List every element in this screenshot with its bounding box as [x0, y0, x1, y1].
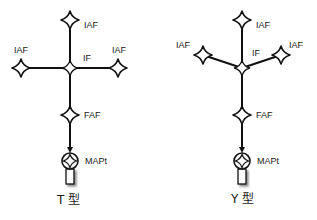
t-mapt-label: MAPt: [85, 156, 108, 166]
t-if-waypoint-icon: [62, 60, 77, 75]
t-iaf-left-waypoint-icon: [12, 59, 30, 77]
y-iaf-right-waypoint-icon: [272, 46, 290, 64]
y-type-caption: Y 型: [230, 192, 254, 206]
t-iaf-top-waypoint-icon: [61, 11, 79, 29]
y-if-label: IF: [252, 48, 261, 58]
t-iaf-top-label: IAF: [84, 20, 99, 30]
approach-diagrams: IAF IAF IAF IF FAF MAPt T 型 IAF IAF IAF …: [0, 0, 317, 220]
t-faf-waypoint-icon: [61, 106, 79, 124]
y-iaf-top-waypoint-icon: [233, 11, 251, 29]
t-type-diagram: IAF IAF IAF IF FAF MAPt T 型: [12, 11, 127, 207]
y-faf-waypoint-icon: [233, 106, 251, 124]
y-mapt-symbol-icon: [234, 153, 250, 184]
t-faf-label: FAF: [84, 110, 101, 120]
t-iaf-right-label: IAF: [112, 45, 127, 55]
y-if-waypoint-icon: [234, 60, 249, 75]
t-type-caption: T 型: [56, 193, 80, 207]
y-iaf-left-label: IAF: [176, 40, 191, 50]
y-iaf-right-label: IAF: [289, 40, 304, 50]
t-iaf-right-waypoint-icon: [109, 59, 127, 77]
y-type-diagram: IAF IAF IAF IF FAF MAPt Y 型: [176, 11, 304, 206]
y-iaf-top-label: IAF: [256, 20, 271, 30]
y-mapt-label: MAPt: [257, 156, 280, 166]
t-mapt-symbol-icon: [62, 153, 78, 184]
t-if-label: IF: [83, 53, 92, 63]
y-faf-label: FAF: [256, 110, 273, 120]
t-iaf-left-label: IAF: [14, 45, 29, 55]
y-iaf-left-waypoint-icon: [194, 46, 212, 64]
